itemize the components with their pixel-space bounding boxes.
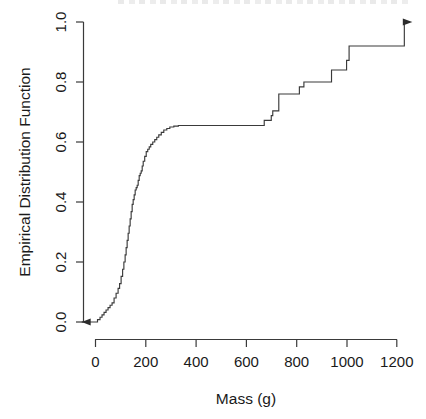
x-tick-label-2: 400: [184, 353, 209, 370]
y-axis-ticks: [76, 22, 84, 322]
x-tick-label-1: 200: [133, 353, 158, 370]
y-tick-label-3: 0.6: [52, 132, 69, 153]
x-axis-title: Mass (g): [216, 390, 276, 407]
y-tick-label-4: 0.8: [52, 72, 69, 93]
x-axis-tick-labels: 0 200 400 600 800 1000 1200: [91, 353, 413, 370]
ecdf-plot-canvas: 0.0 0.2 0.4 0.6 0.8 1.0 Empirical Distri…: [0, 0, 426, 419]
y-tick-label-0: 0.0: [52, 312, 69, 333]
y-tick-label-5: 1.0: [52, 12, 69, 33]
x-tick-label-3: 600: [234, 353, 259, 370]
x-tick-label-0: 0: [91, 353, 99, 370]
x-tick-label-4: 800: [284, 353, 309, 370]
y-axis-group: 0.0 0.2 0.4 0.6 0.8 1.0 Empirical Distri…: [16, 12, 84, 333]
ecdf-series-group: [82, 18, 413, 325]
ecdf-chart-figure: 0.0 0.2 0.4 0.6 0.8 1.0 Empirical Distri…: [0, 0, 426, 419]
x-axis-ticks: [96, 340, 397, 348]
x-tick-label-6: 1200: [380, 353, 413, 370]
right-arrow-icon: [403, 18, 413, 25]
x-tick-label-5: 1000: [330, 353, 363, 370]
x-axis-group: 0 200 400 600 800 1000 1200 Mass (g): [91, 340, 413, 408]
y-tick-label-1: 0.2: [52, 252, 69, 273]
y-axis-title: Empirical Distribution Function: [16, 67, 33, 276]
y-axis-tick-labels: 0.0 0.2 0.4 0.6 0.8 1.0: [52, 12, 69, 333]
y-tick-label-2: 0.4: [52, 192, 69, 213]
ecdf-step-line: [82, 22, 405, 322]
